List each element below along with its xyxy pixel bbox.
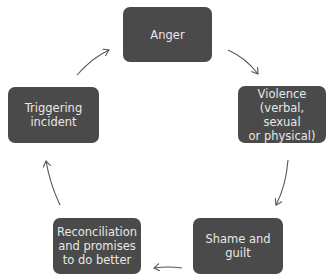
node-shame-and-guilt: Shame and guilt [193,218,283,274]
arrow-anger-to-violence [228,50,258,74]
arrow-violence-to-shame [276,160,288,205]
node-reconciliation: Reconciliation and promises to do better [53,218,141,274]
arrow-reconciliation-to-triggering [46,161,60,205]
arrow-shame-to-reconciliation [154,267,182,268]
node-violence: Violence (verbal, sexual or physical) [238,86,326,143]
node-triggering-incident: Triggering incident [8,87,99,143]
node-anger: Anger [123,7,212,62]
arrow-triggering-to-anger [77,50,109,75]
